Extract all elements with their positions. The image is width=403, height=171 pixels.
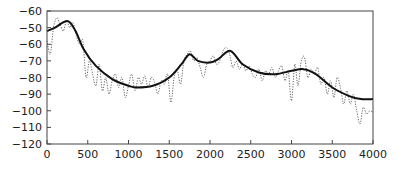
y-tick-label: −100 (12, 105, 42, 118)
x-tick-label: 3000 (278, 148, 306, 161)
x-tick-label: 4000 (359, 148, 387, 161)
x-tick-label: 500 (77, 148, 98, 161)
y-tick-label: −70 (19, 55, 42, 68)
y-tick-label: −110 (12, 121, 42, 134)
x-tick-label: 1000 (115, 148, 143, 161)
y-tick-label: −80 (19, 72, 42, 85)
y-tick-label: −60 (19, 5, 42, 18)
y-tick-label: −60 (19, 38, 42, 51)
y-tick-label: −90 (19, 88, 42, 101)
line-chart: −60−50−60−70−80−90−100−110−120 050010001… (0, 0, 403, 171)
y-tick-label: −50 (19, 22, 42, 35)
y-axis: −60−50−60−70−80−90−100−110−120 (12, 5, 51, 151)
y-tick-label: −120 (12, 138, 42, 151)
smooth-envelope-line (47, 21, 373, 99)
plot-area (47, 18, 373, 124)
x-tick-label: 3500 (318, 148, 346, 161)
x-tick-label: 1500 (155, 148, 183, 161)
x-tick-label: 2500 (237, 148, 265, 161)
x-tick-label: 2000 (196, 148, 224, 161)
x-axis: 05001000150020002500300035004000 (44, 140, 388, 161)
x-tick-label: 0 (44, 148, 51, 161)
raw-spectrum-line (47, 18, 373, 124)
